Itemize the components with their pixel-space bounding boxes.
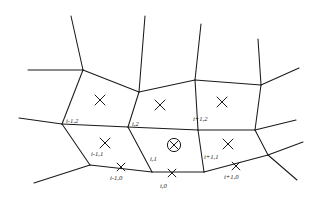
edge-mid-horizontal-1 [62, 124, 128, 127]
edge-upper-left-to-mid [83, 70, 139, 92]
edge-lower-mid-vert [128, 127, 152, 172]
edge-top-left-spur [71, 16, 83, 70]
node-i-0-label: i,0 [160, 182, 167, 189]
center-ip1-2 [217, 97, 227, 107]
center-i-2 [155, 100, 165, 110]
mesh-figure: i-1,2i,2i+1,2i-1,1i,1i+1,1 i-1,0i,0i+1,0 [0, 0, 312, 197]
node-im1-0-label: i-1,0 [110, 174, 123, 181]
edge-lower-left-vert [62, 124, 90, 165]
mesh-canvas: i-1,2i,2i+1,2i-1,1i,1i+1,1 i-1,0i,0i+1,0 [0, 0, 312, 197]
edge-lower-left-arm [34, 165, 90, 183]
edge-lower-mid-vert-2 [198, 130, 204, 172]
edge-right-to-far [195, 80, 261, 85]
edge-mid-vertical-3 [195, 80, 198, 130]
edge-mid-horizontal-2 [128, 127, 198, 130]
edge-far-right-arm [261, 68, 299, 85]
center-ip1-1 [223, 139, 233, 149]
center-im1-1 [100, 138, 110, 148]
center-im1-2 [95, 95, 105, 105]
edge-far-top-spur [258, 39, 261, 85]
edge-bottom-1 [90, 165, 152, 172]
edge-right-mid-vertical [255, 85, 261, 130]
edge-left-mid-arm [19, 118, 62, 124]
cell-i-1-label: i,1 [150, 155, 157, 162]
edge-mid-to-right [139, 80, 195, 92]
cell-i-2-label: i,2 [132, 120, 139, 127]
center-i-1 [167, 138, 180, 151]
edge-lower-right-arm-2 [268, 155, 297, 180]
cell-center-markers-group [95, 95, 233, 152]
edge-mid-top-spur [139, 16, 145, 92]
cell-im1-2-label: i-1,2 [66, 117, 79, 124]
boundary-node-markers-group [117, 162, 240, 177]
cell-ip1-2-label: i+1,2 [193, 115, 208, 122]
cell-ip1-1-label: i+1,1 [204, 153, 219, 160]
edge-left-mid-vertical [62, 70, 83, 124]
bnode-i-0 [168, 169, 176, 177]
cell-labels-group: i-1,2i,2i+1,2i-1,1i,1i+1,1 [66, 115, 219, 162]
edge-right-mid-arm [255, 120, 296, 130]
bnode-im1-0 [117, 163, 125, 171]
mesh-edges-group [19, 16, 303, 183]
cell-im1-1-label: i-1,1 [91, 150, 103, 157]
edge-right-top-spur [195, 24, 201, 80]
node-ip1-0-label: i+1,0 [224, 173, 239, 180]
edge-lower-right-vert [255, 130, 268, 155]
edge-lower-right-arm-1 [268, 142, 303, 155]
